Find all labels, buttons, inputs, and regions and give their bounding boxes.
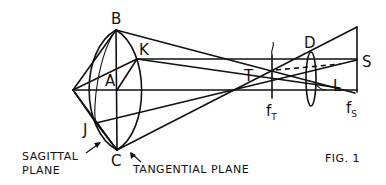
arrow-sagittal [86, 142, 101, 153]
arrow-tangential [130, 152, 141, 162]
label-fT: fT [266, 102, 277, 122]
label-T: T [243, 67, 254, 85]
label-C: C [111, 152, 121, 170]
tangential-rays [96, 27, 357, 150]
label-J: J [82, 121, 87, 139]
label-L: L [333, 77, 342, 95]
label-S: S [362, 53, 372, 71]
focus-tick-mark [272, 42, 274, 55]
label-fS: fS [346, 99, 357, 119]
circle-of-least-confusion [306, 52, 316, 106]
label-tangential-plane: TANGENTIAL PLANE [132, 163, 249, 176]
label-sagittal-plane-1: SAGITTAL [22, 150, 79, 163]
label-B: B [111, 10, 121, 28]
label-K: K [139, 41, 150, 59]
label-sagittal-plane-2: PLANE [22, 164, 60, 177]
figure-caption: FIG. 1 [325, 152, 360, 165]
label-A: A [105, 72, 116, 90]
label-D: D [304, 34, 316, 52]
astigmatism-diagram: B K A J C T D S L fT fS SAGITTAL PLANE T… [0, 0, 386, 185]
